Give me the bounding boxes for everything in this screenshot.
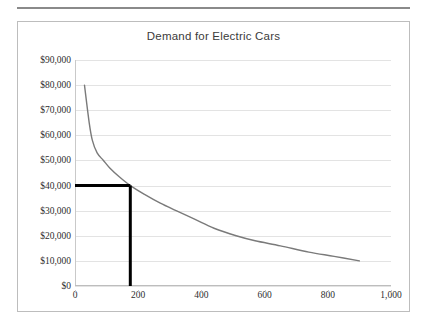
y-axis-tick-label: $10,000 — [40, 256, 71, 266]
y-axis-tick-label: $30,000 — [40, 206, 71, 216]
x-axis-tick-mark — [138, 290, 139, 293]
plot-area — [75, 60, 391, 286]
y-axis-tick-label: $90,000 — [40, 55, 71, 65]
y-axis-tick-label: $0 — [62, 281, 72, 291]
gridline — [75, 286, 391, 287]
x-axis-tick-mark — [201, 290, 202, 293]
x-axis-tick-mark — [328, 290, 329, 293]
chart-frame: Demand for Electric Cars $0$10,000$20,00… — [17, 21, 410, 312]
x-axis-tick-labels: 02004006008001,000 — [75, 290, 391, 306]
y-axis-tick-label: $50,000 — [40, 155, 71, 165]
y-axis-tick-label: $60,000 — [40, 130, 71, 140]
price-quantity-markers — [75, 60, 391, 286]
x-axis-tick-mark — [391, 290, 392, 293]
y-axis-tick-label: $80,000 — [40, 80, 71, 90]
chart-title: Demand for Electric Cars — [18, 30, 409, 42]
x-axis-tick-mark — [75, 290, 76, 293]
y-axis-tick-label: $20,000 — [40, 231, 71, 241]
y-axis-tick-label: $70,000 — [40, 105, 71, 115]
x-axis-tick-mark — [265, 290, 266, 293]
top-divider-rule — [17, 7, 410, 9]
y-axis-tick-label: $40,000 — [40, 181, 71, 191]
y-axis-tick-labels: $0$10,000$20,000$30,000$40,000$50,000$60… — [18, 60, 71, 286]
